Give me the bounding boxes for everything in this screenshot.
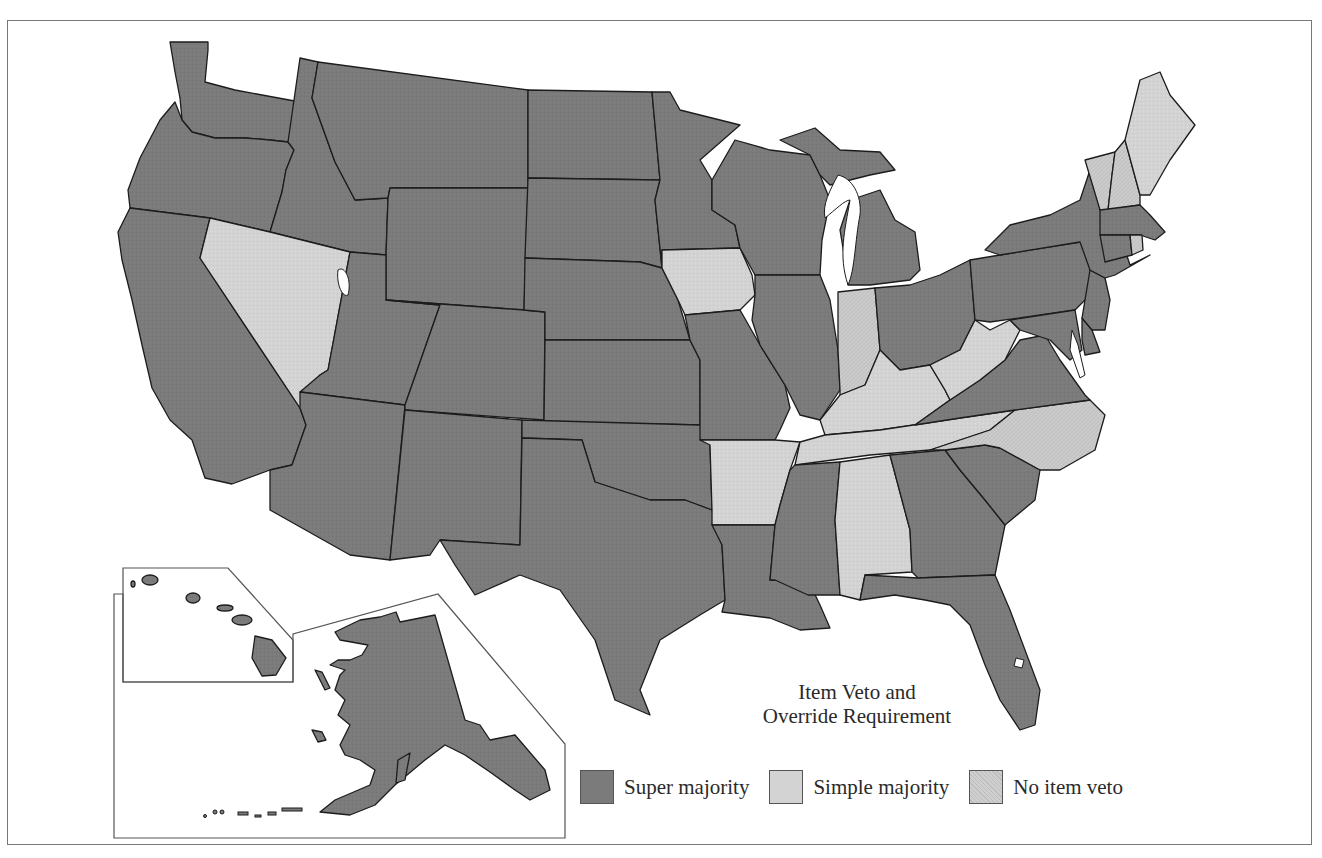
- state-rhode-island: [1130, 235, 1143, 255]
- lake-okeechobee: [1014, 658, 1024, 668]
- swatch-super-majority: [580, 770, 614, 804]
- state-new-mexico: [390, 410, 522, 560]
- state-kansas: [544, 340, 700, 425]
- swatch-no-item-veto: [969, 770, 1003, 804]
- state-montana: [312, 62, 528, 200]
- state-maine: [1125, 72, 1195, 195]
- legend-item-no-item-veto: No item veto: [969, 770, 1123, 804]
- hawaii: [131, 575, 286, 676]
- state-south-dakota: [525, 178, 662, 268]
- swatch-simple-majority: [769, 770, 803, 804]
- state-washington: [170, 42, 300, 142]
- map-title-line2: Override Requirement: [702, 704, 1012, 728]
- legend-item-simple-majority: Simple majority: [769, 770, 949, 804]
- legend-label-no-item-veto: No item veto: [1013, 775, 1123, 800]
- legend: Super majority Simple majority No item v…: [580, 770, 1123, 804]
- state-wyoming: [386, 188, 528, 310]
- map-title-line1: Item Veto and: [702, 680, 1012, 704]
- map-title: Item Veto and Override Requirement: [702, 680, 1012, 728]
- state-north-dakota: [528, 90, 660, 180]
- us-map: [0, 0, 1322, 858]
- aleutian-islands: [204, 808, 303, 818]
- legend-label-simple-majority: Simple majority: [813, 775, 949, 800]
- legend-label-super-majority: Super majority: [624, 775, 749, 800]
- legend-item-super-majority: Super majority: [580, 770, 749, 804]
